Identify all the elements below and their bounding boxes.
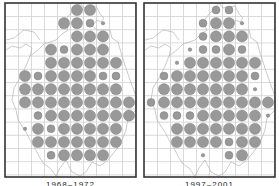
record-dot	[188, 48, 192, 52]
record-dot	[110, 84, 121, 95]
record-dot	[71, 44, 82, 55]
record-dot	[225, 151, 233, 159]
record-dot	[45, 44, 56, 55]
record-dot	[58, 18, 69, 29]
record-dot	[47, 125, 55, 133]
record-dot	[147, 98, 155, 106]
record-dot	[210, 18, 221, 29]
record-dot	[84, 136, 95, 147]
record-dot	[101, 21, 105, 25]
record-dot	[212, 46, 220, 54]
record-dot	[197, 97, 208, 108]
record-dot	[184, 70, 195, 81]
record-dot	[32, 97, 43, 108]
record-dot	[110, 97, 121, 108]
record-dot	[84, 97, 95, 108]
record-dot	[223, 31, 234, 42]
record-dot	[97, 84, 108, 95]
record-dot	[201, 153, 205, 157]
record-dot	[223, 97, 234, 108]
record-dot	[197, 110, 208, 121]
record-dot	[71, 97, 82, 108]
record-dot	[84, 70, 95, 81]
record-dot	[236, 57, 247, 68]
record-dot	[58, 70, 69, 81]
record-dot	[171, 84, 182, 95]
record-dot	[184, 57, 195, 68]
record-dot	[223, 123, 234, 134]
record-dot	[249, 97, 260, 108]
record-dot	[160, 112, 168, 120]
map-caption-right: 1997–2001	[144, 180, 275, 186]
record-dot	[45, 136, 56, 147]
record-dot	[97, 57, 108, 68]
record-dot	[58, 136, 69, 147]
record-dot	[199, 46, 207, 54]
record-dot	[71, 18, 82, 29]
record-dot	[84, 44, 95, 55]
record-dot	[197, 57, 208, 68]
record-dot	[86, 19, 94, 27]
record-dot	[210, 123, 221, 134]
record-dot	[184, 84, 195, 95]
record-dot	[84, 84, 95, 95]
record-dot	[210, 110, 221, 121]
record-dot	[71, 31, 82, 42]
record-dot	[249, 110, 260, 121]
record-dot	[236, 110, 247, 121]
record-dot	[210, 31, 221, 42]
record-dot	[58, 97, 69, 108]
record-dot	[210, 84, 221, 95]
record-dot	[58, 150, 69, 161]
record-dot	[253, 87, 257, 91]
record-dot	[34, 72, 42, 80]
record-dot	[71, 110, 82, 121]
record-dot	[110, 123, 121, 134]
record-dot	[47, 151, 55, 159]
record-dot	[236, 31, 247, 42]
record-dot	[199, 32, 207, 40]
distribution-map-right	[139, 0, 279, 180]
record-dot	[112, 72, 120, 80]
record-dot	[84, 4, 95, 15]
record-dot	[249, 57, 260, 68]
record-dot	[58, 57, 69, 68]
record-dot	[23, 127, 27, 131]
record-dot	[84, 150, 95, 161]
record-dot	[99, 72, 107, 80]
record-dot	[210, 136, 221, 147]
record-dot	[186, 112, 194, 120]
record-dot	[110, 110, 121, 121]
record-dot	[19, 70, 30, 81]
record-dot	[71, 84, 82, 95]
record-dot	[199, 19, 207, 27]
record-dot	[32, 136, 43, 147]
record-dot	[71, 150, 82, 161]
record-dot	[71, 57, 82, 68]
record-dot	[240, 21, 244, 25]
record-dot	[19, 84, 30, 95]
record-dot	[223, 18, 234, 29]
record-dot	[197, 84, 208, 95]
record-dot	[236, 123, 247, 134]
distribution-map-left	[0, 0, 139, 180]
record-dot	[45, 110, 56, 121]
record-dot	[123, 97, 134, 108]
record-dot	[71, 136, 82, 147]
record-dot	[97, 31, 108, 42]
record-dot	[210, 97, 221, 108]
record-dot	[251, 72, 259, 80]
record-dot	[197, 136, 208, 147]
record-dot	[158, 84, 169, 95]
record-dot	[19, 97, 30, 108]
record-dot	[110, 57, 121, 68]
record-dot	[210, 57, 221, 68]
record-dot	[45, 84, 56, 95]
record-dot	[266, 114, 270, 118]
record-dot	[32, 84, 43, 95]
record-dot	[236, 84, 247, 95]
record-dot	[171, 123, 182, 134]
record-dot	[84, 31, 95, 42]
record-dot	[171, 97, 182, 108]
record-dot	[97, 136, 108, 147]
